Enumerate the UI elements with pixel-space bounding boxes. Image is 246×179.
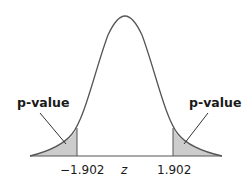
right-pvalue-pointer (184, 113, 208, 144)
axis-label-z: z (120, 163, 128, 177)
normal-distribution-chart: p-value p-value −1.902 1.902 z (0, 0, 246, 179)
left-tail-shade (30, 128, 77, 156)
right-pvalue-label: p-value (189, 95, 241, 110)
left-pvalue-pointer (40, 113, 66, 144)
left-pvalue-label: p-value (17, 95, 69, 110)
right-tail-shade (173, 128, 222, 156)
right-tick-label: 1.902 (157, 163, 191, 177)
left-tick-label: −1.902 (60, 163, 104, 177)
